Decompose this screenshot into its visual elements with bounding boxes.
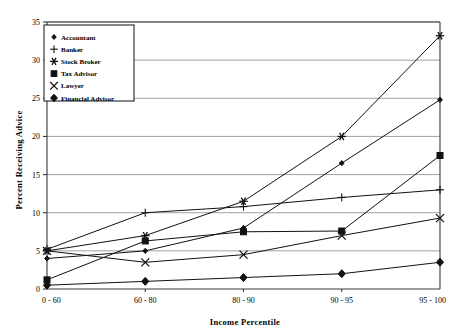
y-tick-label: 0 (36, 285, 40, 294)
marker-filled-square (241, 229, 247, 235)
y-tick-label: 15 (32, 171, 40, 180)
series-lawyer (43, 214, 444, 266)
legend: AccountantBankerStock BrokerTax AdvisorL… (44, 25, 134, 103)
legend-item-label: Financial Advisor (61, 95, 114, 103)
y-tick-label: 30 (32, 56, 40, 65)
series-banker (43, 186, 444, 254)
marker-small-diamond (339, 161, 344, 166)
legend-item-label: Lawyer (61, 82, 84, 90)
marker-filled-diamond (240, 274, 247, 282)
series-financial-advisor (43, 258, 443, 289)
marker-filled-square (142, 238, 148, 244)
y-tick-label: 10 (32, 209, 40, 218)
series-accountant (45, 97, 443, 261)
marker-filled-diamond (142, 277, 149, 285)
x-tick-label: 0 - 60 (42, 296, 61, 305)
y-tick-label: 20 (32, 132, 40, 141)
x-axis-title: Income Percentile (210, 317, 280, 327)
marker-filled-diamond (338, 270, 345, 278)
y-tick-label: 35 (32, 18, 40, 27)
legend-item-label: Banker (61, 46, 83, 54)
series-line (47, 190, 440, 250)
marker-filled-diamond (436, 258, 443, 266)
legend-item-label: Stock Broker (61, 58, 101, 66)
legend-item-financial-advisor[interactable]: Financial Advisor (51, 94, 115, 102)
x-tick-label: 90 - 95 (330, 296, 353, 305)
xtick-labels: 0 - 6060 - 8080 - 9090 - 9595 - 100 (42, 296, 446, 305)
x-tick-label: 95 - 100 (419, 296, 446, 305)
marker-filled-square (51, 71, 57, 77)
ytick-labels: 05101520253035 (32, 18, 40, 294)
x-tick-label: 60 - 80 (134, 296, 157, 305)
y-tick-label: 25 (32, 94, 40, 103)
series-tax-advisor (44, 153, 443, 283)
chart-container: 05101520253035 0 - 6060 - 8080 - 9090 - … (0, 0, 454, 334)
x-tick-label: 80 - 90 (232, 296, 255, 305)
legend-item-label: Accountant (61, 34, 96, 42)
y-axis-title: Percent Receiving Advice (14, 110, 24, 209)
legend-item-label: Tax Advisor (61, 70, 97, 78)
marker-filled-square (437, 153, 443, 159)
marker-small-diamond (45, 256, 50, 261)
series-line (47, 156, 440, 280)
y-tick-label: 5 (36, 247, 40, 256)
line-chart: 05101520253035 0 - 6060 - 8080 - 9090 - … (0, 0, 454, 334)
marker-small-diamond (143, 248, 148, 253)
